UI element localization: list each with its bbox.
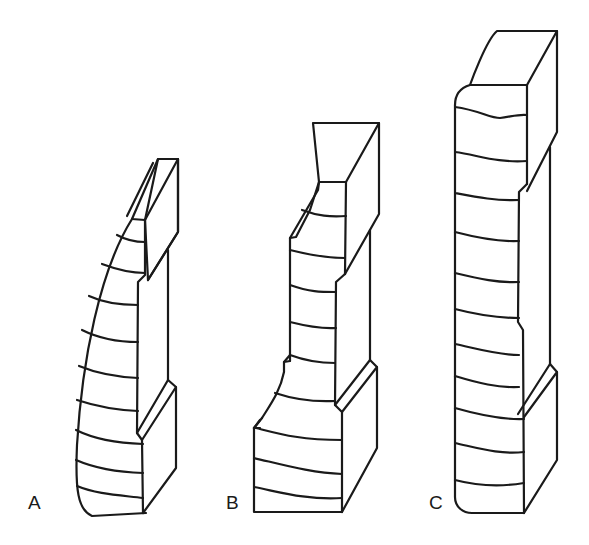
- specimen-figure: A B C: [0, 0, 589, 545]
- specimen-drawing: [0, 0, 589, 545]
- label-a: A: [28, 493, 41, 512]
- specimen-c: [455, 31, 557, 513]
- specimen-a: [76, 159, 178, 516]
- label-b: B: [226, 493, 239, 512]
- specimen-b: [254, 123, 379, 512]
- label-c: C: [429, 493, 443, 512]
